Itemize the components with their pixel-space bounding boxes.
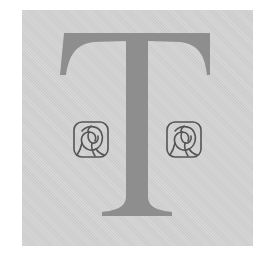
rose-stem-right: [189, 149, 197, 155]
rose-ornament-left: [74, 122, 108, 157]
drop-cap-artwork: [0, 0, 267, 262]
rose-stem-right: [96, 149, 104, 155]
rose-stem-left: [170, 143, 175, 155]
rose-ornament-right: [167, 122, 201, 157]
rose-stem-left: [77, 143, 82, 155]
letter-t: [60, 33, 210, 216]
